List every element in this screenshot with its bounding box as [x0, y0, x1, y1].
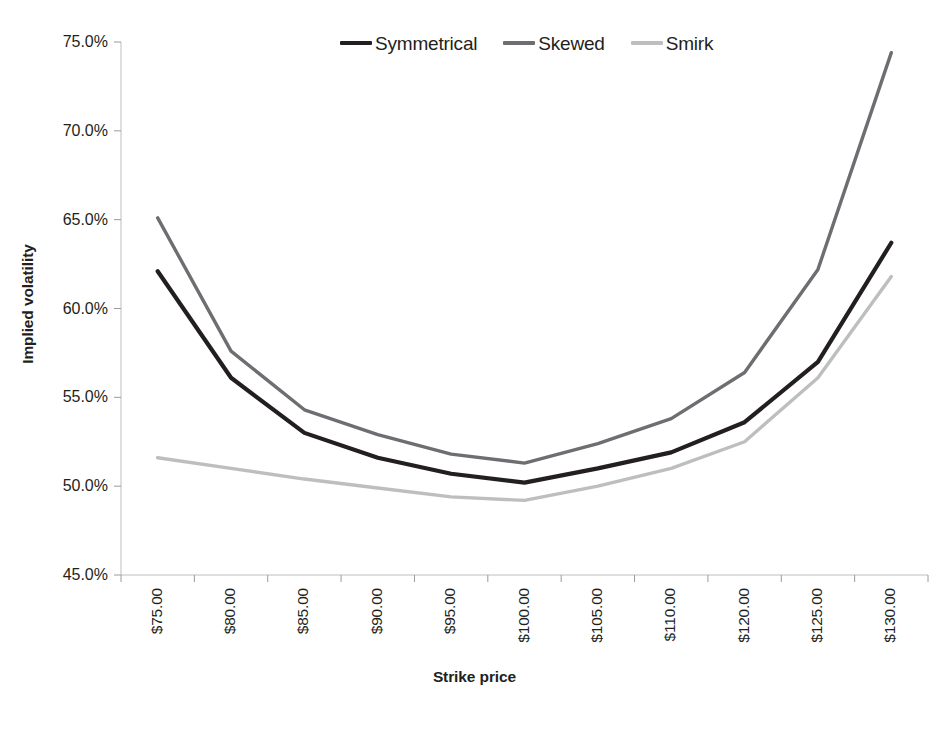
series-lines [158, 53, 892, 501]
x-tick-label: $125.00 [808, 588, 828, 643]
series-line-smirk[interactable] [158, 277, 892, 501]
series-line-skewed[interactable] [158, 53, 892, 463]
x-tick-label: $75.00 [148, 588, 168, 634]
x-tick-label: $130.00 [881, 588, 901, 643]
x-tick-label: $120.00 [735, 588, 755, 643]
x-axis-title: Strike price [0, 668, 949, 686]
x-tick-label: $105.00 [588, 588, 608, 643]
x-tick-label: $100.00 [515, 588, 535, 643]
x-tick-label: $110.00 [661, 588, 681, 641]
axis-lines [121, 42, 928, 575]
implied-volatility-chart: SymmetricalSkewedSmirk 75.0%70.0%65.0%60… [0, 0, 949, 730]
x-tick-label: $95.00 [441, 588, 461, 634]
plot-area [0, 0, 949, 730]
x-tick-label: $90.00 [368, 588, 388, 634]
x-tick-label: $85.00 [294, 588, 314, 634]
x-tick-label: $80.00 [221, 588, 241, 634]
series-line-symmetrical[interactable] [158, 243, 892, 483]
